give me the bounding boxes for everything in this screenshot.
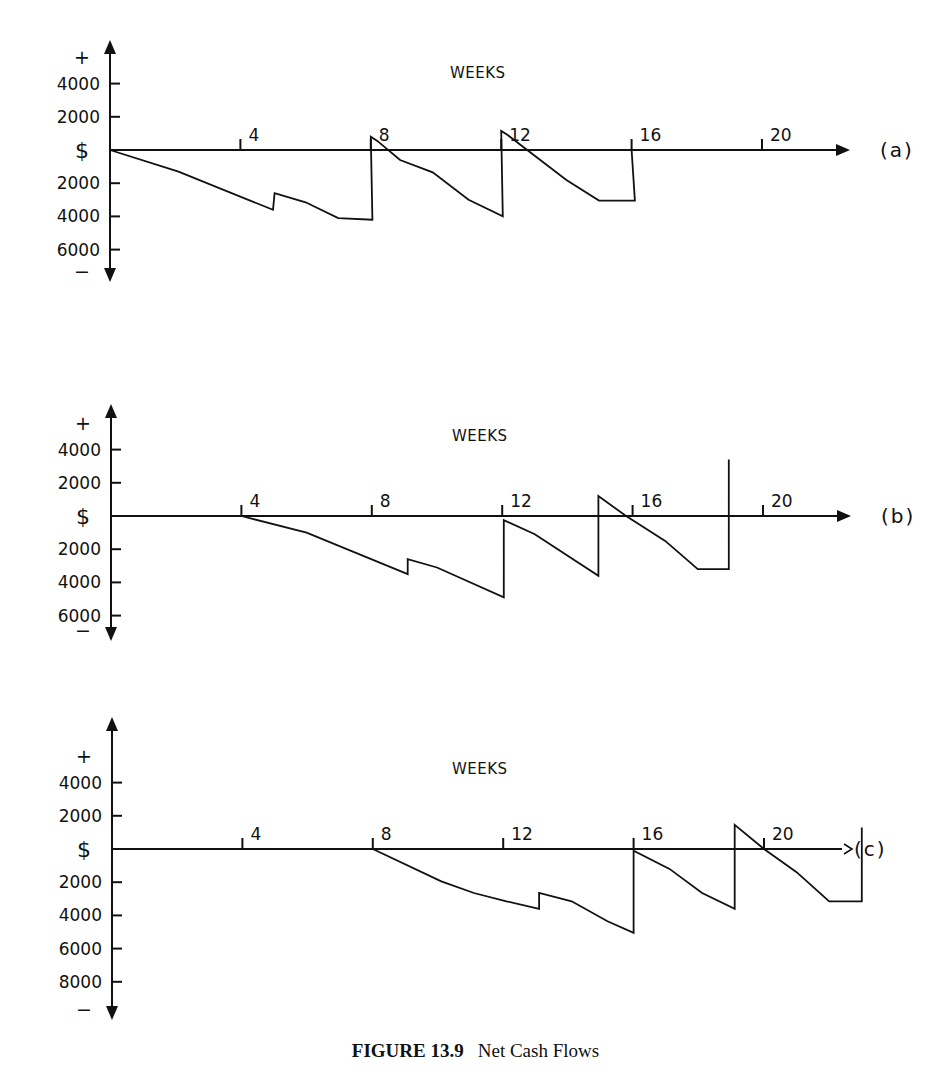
y-axis-up-arrow-icon: [105, 404, 117, 418]
y-tick-label: 2000: [59, 872, 102, 892]
x-axis-title: WEEKS: [452, 760, 508, 778]
y-tick-label: 4000: [58, 572, 101, 592]
y-axis-down-arrow-icon: [104, 268, 116, 282]
x-tick-label: 20: [771, 491, 793, 511]
x-tick-label: 16: [641, 491, 663, 511]
y-tick-label: 2000: [59, 806, 102, 826]
net-cash-flows-figure: (a)WEEKS4812162040002000200040006000$+− …: [0, 0, 951, 1083]
chart-panel-a: (a)WEEKS4812162040002000200040006000$+−: [57, 40, 914, 282]
figure-number: FIGURE 13.9: [352, 1040, 464, 1061]
y-axis-title: $: [77, 837, 91, 862]
y-tick-label: 4000: [57, 74, 100, 94]
x-tick-label: 20: [772, 824, 794, 844]
x-tick-label: 16: [642, 824, 664, 844]
x-tick-label: 8: [380, 491, 391, 511]
y-axis-down-arrow-icon: [106, 1006, 118, 1020]
positive-sign: +: [76, 745, 92, 767]
x-axis-arrow-icon: [844, 844, 852, 854]
y-tick-label: 2000: [58, 473, 101, 493]
y-axis-up-arrow-icon: [104, 40, 116, 54]
positive-sign: +: [74, 46, 90, 68]
x-tick-label: 12: [510, 491, 532, 511]
panel-label: (c): [854, 837, 887, 861]
x-tick-label: 8: [379, 125, 390, 145]
panel-label: (b): [881, 504, 915, 528]
x-tick-label: 20: [770, 125, 792, 145]
y-tick-label: 6000: [59, 939, 102, 959]
x-axis-arrow-icon: [836, 144, 850, 156]
y-tick-label: 2000: [58, 539, 101, 559]
cash-flow-line: [110, 131, 635, 220]
x-tick-label: 12: [509, 125, 531, 145]
y-tick-label: 4000: [59, 905, 102, 925]
x-tick-label: 16: [640, 125, 662, 145]
positive-sign: +: [75, 412, 91, 434]
y-tick-label: 4000: [57, 206, 100, 226]
y-axis-down-arrow-icon: [105, 627, 117, 641]
y-axis-up-arrow-icon: [106, 717, 118, 731]
y-axis-title: $: [75, 138, 89, 163]
panel-label: (a): [880, 138, 914, 162]
x-axis-arrow-icon: [837, 510, 851, 522]
y-tick-label: 8000: [59, 972, 102, 992]
y-tick-label: 2000: [57, 107, 100, 127]
charts-canvas: (a)WEEKS4812162040002000200040006000$+− …: [0, 0, 951, 1083]
x-tick-label: 4: [250, 824, 261, 844]
cash-flow-line: [241, 460, 728, 598]
chart-panel-c: (c)WEEKS48121620400020002000400060008000…: [59, 717, 887, 1020]
chart-panel-b: (b)WEEKS4812162040002000200040006000$+−: [58, 404, 916, 641]
y-tick-label: 4000: [59, 773, 102, 793]
x-tick-label: 4: [248, 125, 259, 145]
y-tick-label: 2000: [57, 173, 100, 193]
figure-caption: FIGURE 13.9Net Cash Flows: [0, 1040, 951, 1062]
x-axis-title: WEEKS: [450, 64, 506, 82]
y-tick-label: 6000: [57, 240, 100, 260]
x-tick-label: 8: [381, 824, 392, 844]
negative-sign: −: [74, 260, 90, 282]
x-tick-label: 4: [249, 491, 260, 511]
negative-sign: −: [76, 998, 92, 1020]
x-tick-label: 12: [511, 824, 533, 844]
negative-sign: −: [75, 619, 91, 641]
y-axis-title: $: [76, 504, 90, 529]
y-tick-label: 4000: [58, 440, 101, 460]
figure-title: Net Cash Flows: [478, 1040, 599, 1061]
x-axis-title: WEEKS: [452, 427, 508, 445]
